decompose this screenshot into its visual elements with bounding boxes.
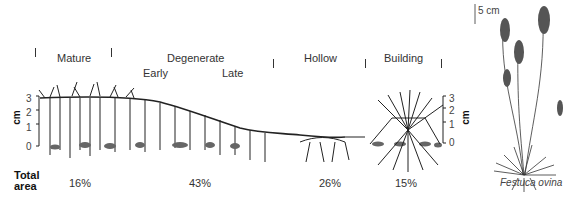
vegetation-profile-illustration [0, 0, 580, 203]
right-axis-line [443, 96, 446, 143]
scale-bar-label: 5 cm [478, 5, 500, 16]
total-area-hollow: 26% [319, 177, 341, 189]
left-axis-line [36, 96, 39, 146]
total-area-degenerate: 43% [189, 177, 211, 189]
total-area-label-line2: area [14, 181, 37, 192]
total-area-building: 15% [395, 177, 417, 189]
species-caption: Festuca ovina [500, 177, 562, 188]
total-area-mature: 16% [69, 177, 91, 189]
